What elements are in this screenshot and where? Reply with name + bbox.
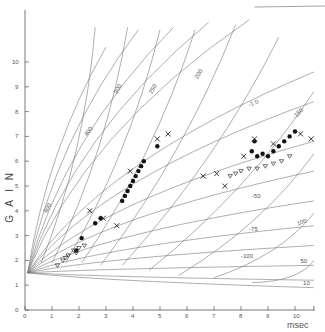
data-point-cross [271,141,276,146]
curve-label: 300 [112,82,123,94]
data-point-open-triangle [271,162,275,166]
nomogram-curve [28,20,249,273]
y-tick-label: 2 [15,257,19,263]
curve-label: 600 [42,202,53,214]
data-point-filled-circle [125,189,129,193]
y-tick-label: 0 [15,307,19,313]
y-axis-label: G A I N [4,170,15,223]
nomogram-curve [28,171,314,273]
data-point-filled-circle [93,221,97,225]
data-point-cross [309,136,314,141]
data-point-open-triangle [287,155,291,159]
nomogram-curve [101,25,236,266]
data-point-open-triangle [55,264,59,268]
top-frame-line [255,6,325,7]
nomogram-curve [149,92,314,271]
nomogram-curve [52,27,128,263]
data-point-filled-circle [142,159,146,163]
x-tick-label: 10 [293,313,300,319]
curve-label: 50 [300,258,307,264]
data-point-filled-circle [260,152,264,156]
data-point-filled-circle [287,134,291,138]
data-point-cross [214,171,219,176]
data-point-open-triangle [63,256,67,260]
y-tick-label: 9 [15,84,19,90]
x-tick-label: 5 [158,313,162,319]
x-tick-label: 4 [131,313,135,319]
x-tick-label: 9 [266,313,270,319]
data-point-open-triangle [263,165,267,169]
y-tick-label: 1 [15,282,19,288]
curve-label: 10 [303,280,310,286]
data-point-filled-circle [120,199,124,203]
data-point-open-triangle [82,244,86,248]
y-tick-label: 8 [15,109,19,115]
data-point-filled-circle [80,236,84,240]
data-point-filled-circle [293,129,297,133]
x-tick-label: 1 [50,313,54,319]
y-tick-label: 7 [15,133,19,139]
y-tick-label: 10 [12,59,19,65]
data-point-cross [87,208,92,213]
data-point-filled-circle [139,164,143,168]
data-point-filled-circle [123,194,127,198]
nomogram-curve [28,201,314,273]
curve-label: 200 [193,68,204,80]
data-point-filled-circle [282,139,286,143]
x-tick-label: 8 [239,313,243,319]
x-tick-label: 2 [77,313,81,319]
nomogram-curve [28,141,314,272]
x-tick-label: 7 [212,313,216,319]
data-point-open-triangle [233,172,237,176]
data-point-cross [155,136,160,141]
curve-label: -100 [241,253,254,259]
data-point-filled-circle [134,174,138,178]
data-point-filled-circle [155,144,159,148]
nomogram-curve [28,102,314,273]
data-point-filled-circle [131,179,135,183]
data-point-filled-circle [266,154,270,158]
data-point-open-triangle [255,167,259,171]
data-point-cross [298,131,303,136]
y-tick-label: 5 [15,183,19,189]
data-point-open-triangle [239,170,243,174]
curve-label: 100 [296,217,308,226]
data-point-filled-circle [271,149,275,153]
x-tick-label: 3 [104,313,108,319]
nomogram-curve [28,265,314,272]
x-tick-label: 6 [185,313,189,319]
chart-canvas: 012345678910012345678910600400300250200-… [0,0,325,332]
data-point-filled-circle [255,154,259,158]
data-point-cross [201,174,206,179]
data-point-cross [128,169,133,174]
data-point-open-triangle [228,175,232,179]
x-tick-label: 0 [23,313,27,319]
data-point-filled-circle [128,184,132,188]
curve-label: 400 [83,125,94,137]
curve-label: -75 [249,226,258,232]
data-point-cross [241,154,246,159]
data-point-cross [166,131,171,136]
data-point-filled-circle [250,149,254,153]
data-point-cross [222,184,227,189]
curve-label: -50 [252,193,261,199]
data-point-filled-circle [136,169,140,173]
y-tick-label: 4 [15,208,19,214]
nomogram-curve [28,27,174,273]
data-point-open-triangle [279,160,283,164]
data-point-filled-circle [277,144,281,148]
y-tick-label: 6 [15,158,19,164]
nomogram-curve [28,246,314,273]
nomogram-curve [28,22,209,272]
x-axis-label: msec [287,320,309,330]
curve-label: -1.0 [247,98,259,107]
data-point-open-triangle [247,167,251,171]
y-tick-label: 3 [15,233,19,239]
